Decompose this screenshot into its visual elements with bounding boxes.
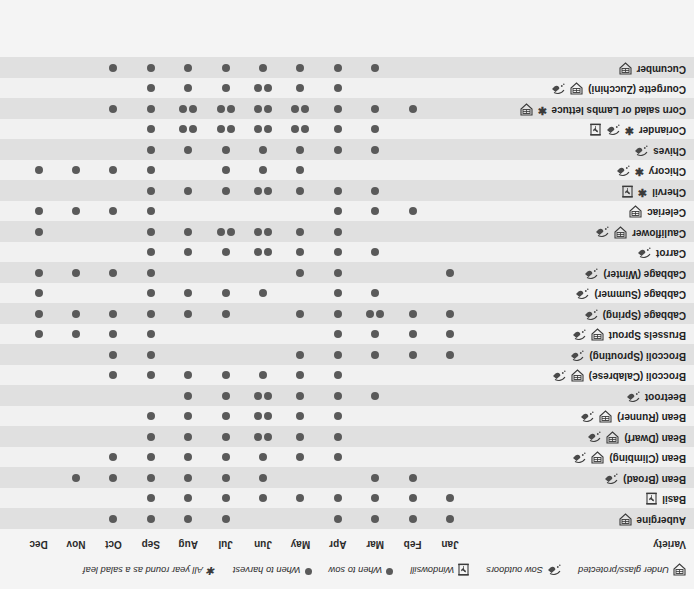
variety-name: Basil	[662, 494, 686, 505]
harvest-dot	[254, 249, 262, 257]
harvest-dot	[254, 105, 262, 113]
harvest-dot	[222, 85, 230, 93]
harvest-dot	[35, 290, 43, 298]
variety-name: Brussels Sprout	[609, 330, 686, 341]
month-header-sep: Sep	[132, 539, 170, 550]
under-glass-icon	[614, 226, 627, 239]
sow-dot	[409, 310, 417, 318]
sow-dot	[264, 126, 272, 134]
harvest-dot	[291, 105, 299, 113]
harvest-dot	[184, 187, 192, 195]
calendar-row: Cucumber	[0, 58, 694, 79]
calendar-row: Bean (Climbing)	[0, 447, 694, 468]
variety-name: Bean (Climbing)	[609, 453, 686, 464]
calendar-row: Bean (Runner)	[0, 406, 694, 427]
variety-cell: Chives	[634, 145, 686, 157]
sow-dot	[334, 454, 342, 462]
sow-dot	[296, 187, 304, 195]
harvest-dot	[72, 208, 80, 216]
sow-dot	[334, 126, 342, 134]
sow-dot	[334, 249, 342, 257]
sow-dot	[446, 269, 454, 277]
star-icon: ✱	[635, 167, 644, 179]
harvest-dot	[179, 126, 187, 134]
sow-outdoors-icon	[584, 268, 598, 280]
month-header-may: May	[281, 539, 319, 550]
month-header-nov: Nov	[57, 539, 95, 550]
harvest-dot	[147, 187, 155, 195]
harvest-dot	[109, 351, 117, 359]
harvest-dot	[254, 392, 262, 400]
calendar-row: Chives	[0, 140, 694, 161]
harvest-dot	[217, 105, 225, 113]
harvest-dot	[184, 495, 192, 503]
harvest-dot	[35, 331, 43, 339]
under-glass-icon	[599, 411, 612, 424]
harvest-dot	[147, 310, 155, 318]
sow-outdoors-icon	[606, 124, 620, 136]
star-icon: ✱	[207, 564, 216, 575]
harvest-dot	[109, 454, 117, 462]
sow-dot	[409, 495, 417, 503]
variety-name: Celeriac	[647, 207, 686, 218]
chart-stage: Under glass/protectedSow outdoorsWindows…	[0, 0, 694, 589]
sow-dot	[334, 146, 342, 154]
harvest-dot	[109, 515, 117, 523]
variety-cell: Cabbage (Summer)	[575, 288, 686, 300]
harvest-dot	[72, 474, 80, 482]
sow-dot	[296, 372, 304, 380]
variety-cell: Corn salad or Lambs lettuce✱	[520, 103, 686, 116]
sow-dot	[446, 495, 454, 503]
harvest-dot	[109, 167, 117, 175]
harvest-dot	[109, 64, 117, 72]
variety-cell: Beetroot	[626, 391, 686, 403]
variety-cell: Chervil✱	[622, 185, 686, 198]
variety-name: Broccoli (Sprouting)	[589, 351, 686, 362]
under-glass-icon	[673, 564, 686, 577]
star-icon: ✱	[538, 105, 547, 117]
harvest-dot	[371, 351, 379, 359]
star-icon: ✱	[625, 125, 634, 137]
harvest-dot	[147, 413, 155, 421]
harvest-dot	[72, 167, 80, 175]
harvest-dot	[334, 310, 342, 318]
sow-dot	[334, 64, 342, 72]
sow-dot	[296, 167, 304, 175]
variety-cell: Carrot	[637, 247, 686, 259]
harvest-dot	[222, 433, 230, 441]
under-glass-icon	[606, 431, 619, 444]
harvest-dot	[147, 105, 155, 113]
sow-dot	[334, 433, 342, 441]
harvest-dot	[179, 105, 187, 113]
sow-dot	[446, 515, 454, 523]
legend-item-salad-leaf: ✱All year round as a salad leaf	[83, 564, 216, 575]
legend-item-sow-outdoors: Sow outdoors	[486, 564, 561, 576]
sow-dot	[264, 105, 272, 113]
harvest-dot	[147, 290, 155, 298]
variety-name: Bean (Runner)	[617, 412, 686, 423]
calendar-row: Cabbage (Summer)	[0, 283, 694, 304]
sow-dot	[296, 392, 304, 400]
sow-dot	[264, 413, 272, 421]
sow-dot	[409, 208, 417, 216]
sow-dot	[189, 105, 197, 113]
sow-dot	[334, 372, 342, 380]
variety-cell: Basil	[646, 493, 686, 506]
sow-dot	[334, 187, 342, 195]
variety-name: Cabbage (Spring)	[603, 310, 686, 321]
sow-dot	[446, 310, 454, 318]
under-glass-icon	[629, 206, 642, 219]
variety-name: Coriander	[639, 125, 686, 136]
calendar-row: Carrot	[0, 242, 694, 263]
calendar-row: Cauliflower	[0, 222, 694, 243]
calendar-row: Brussels Sprout	[0, 324, 694, 345]
sow-dot	[296, 413, 304, 421]
sow-dot	[371, 64, 379, 72]
legend-label: All year round as a salad leaf	[83, 565, 203, 575]
sow-outdoors-icon	[552, 370, 566, 382]
variety-cell: Broccoli (Sprouting)	[570, 350, 686, 362]
sow-dot	[371, 146, 379, 154]
sow-dot	[264, 85, 272, 93]
variety-name: Bean (Broad)	[623, 474, 686, 485]
harvest-dot	[109, 474, 117, 482]
